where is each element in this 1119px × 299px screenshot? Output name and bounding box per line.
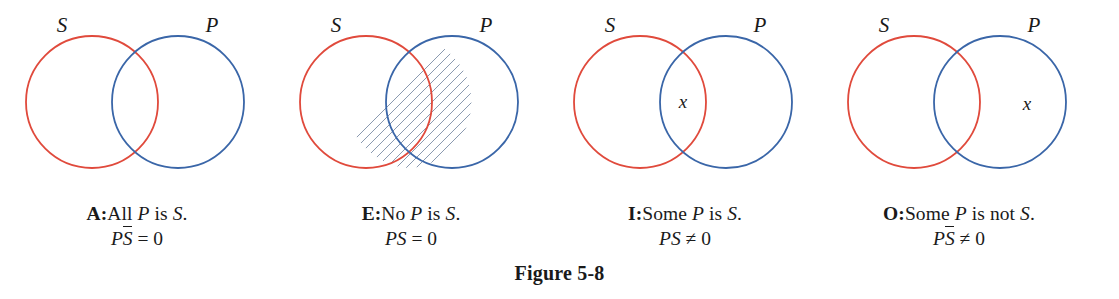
panel-letter-a: A:	[86, 203, 107, 224]
set-label-p-a: P	[205, 13, 219, 37]
circle-subject-s-a	[26, 36, 158, 168]
caption-statement-a: A:All P is S.	[86, 202, 187, 226]
period-a: .	[183, 203, 188, 224]
caption-statement-e: E:No P is S.	[362, 202, 461, 226]
circle-subject-s-o	[848, 36, 980, 168]
formula-left-a: P	[111, 228, 123, 249]
set-label-s-i: S	[605, 13, 616, 37]
shading-p-only-a	[60, 0, 274, 200]
subject-term-o: P	[955, 203, 967, 224]
circle-predicate-p-a	[112, 36, 244, 168]
quantifier-e: No	[381, 203, 410, 224]
period-o: .	[1030, 203, 1035, 224]
copula-a: is	[149, 203, 172, 224]
venn-svg-o: S P x	[822, 0, 1096, 200]
period-i: .	[737, 203, 742, 224]
caption-e: E:No P is S. PS = 0	[362, 202, 461, 251]
predicate-term-a: S	[173, 203, 183, 224]
panel-letter-e: E:	[362, 203, 382, 224]
period-e: .	[455, 203, 460, 224]
copula-o: is not	[967, 203, 1020, 224]
formula-relation-a: = 0	[133, 228, 164, 249]
quantifier-o: Some	[905, 203, 955, 224]
caption-statement-o: O:Some P is not S.	[883, 202, 1035, 226]
set-label-s-a: S	[57, 13, 68, 37]
subject-term-i: P	[692, 203, 704, 224]
venn-diagram-o: S P x	[822, 0, 1096, 200]
caption-formula-a: PS = 0	[86, 227, 187, 251]
venn-svg-a: S P	[0, 0, 274, 200]
venn-diagram-i: S P x	[548, 0, 822, 200]
caption-formula-i: PS ≠ 0	[628, 227, 742, 251]
quantifier-i: Some	[642, 203, 692, 224]
caption-formula-o: PS ≠ 0	[883, 227, 1035, 251]
formula-barred-o: S	[945, 227, 955, 251]
venn-panel-a: S P A:All P is S. PS = 0	[0, 0, 274, 251]
set-label-p-o: P	[1027, 13, 1041, 37]
caption-i: I:Some P is S. PS ≠ 0	[628, 202, 742, 251]
predicate-term-e: S	[446, 203, 456, 224]
set-label-p-i: P	[753, 13, 767, 37]
figure-caption-label: Figure 5-8	[0, 262, 1119, 285]
quantifier-a: All	[107, 203, 137, 224]
formula-relation-e: = 0	[407, 228, 438, 249]
panel-letter-o: O:	[883, 203, 905, 224]
formula-left-i: PS	[659, 228, 681, 249]
x-mark-intersection-i: x	[678, 91, 688, 112]
figure-5-8: S P A:All P is S. PS = 0	[0, 0, 1119, 299]
set-label-s-e: S	[331, 13, 342, 37]
subject-term-e: P	[410, 203, 422, 224]
panel-letter-i: I:	[628, 203, 642, 224]
venn-panel-o: S P x O:Some P is not S. PS ≠ 0	[822, 0, 1096, 251]
formula-relation-o: ≠ 0	[955, 228, 985, 249]
formula-left-e: PS	[385, 228, 407, 249]
x-mark-p-only-o: x	[1022, 93, 1032, 114]
circle-predicate-p-o	[934, 36, 1066, 168]
caption-o: O:Some P is not S. PS ≠ 0	[883, 202, 1035, 251]
predicate-term-o: S	[1020, 203, 1030, 224]
formula-relation-i: ≠ 0	[681, 228, 711, 249]
subject-term-a: P	[137, 203, 149, 224]
set-label-p-e: P	[479, 13, 493, 37]
venn-svg-e: S P	[274, 0, 548, 200]
set-label-s-o: S	[879, 13, 890, 37]
predicate-term-i: S	[727, 203, 737, 224]
caption-statement-i: I:Some P is S.	[628, 202, 742, 226]
venn-panel-row: S P A:All P is S. PS = 0	[0, 0, 1119, 251]
copula-e: is	[422, 203, 445, 224]
formula-left-o: P	[933, 228, 945, 249]
venn-diagram-a: S P	[0, 0, 274, 200]
caption-formula-e: PS = 0	[362, 227, 461, 251]
venn-panel-e: S P E:No P is S. PS = 0	[274, 0, 548, 251]
copula-i: is	[704, 203, 727, 224]
caption-a: A:All P is S. PS = 0	[86, 202, 187, 251]
venn-svg-i: S P x	[548, 0, 822, 200]
venn-panel-i: S P x I:Some P is S. PS ≠ 0	[548, 0, 822, 251]
formula-barred-a: S	[123, 227, 133, 251]
venn-diagram-e: S P	[274, 0, 548, 200]
